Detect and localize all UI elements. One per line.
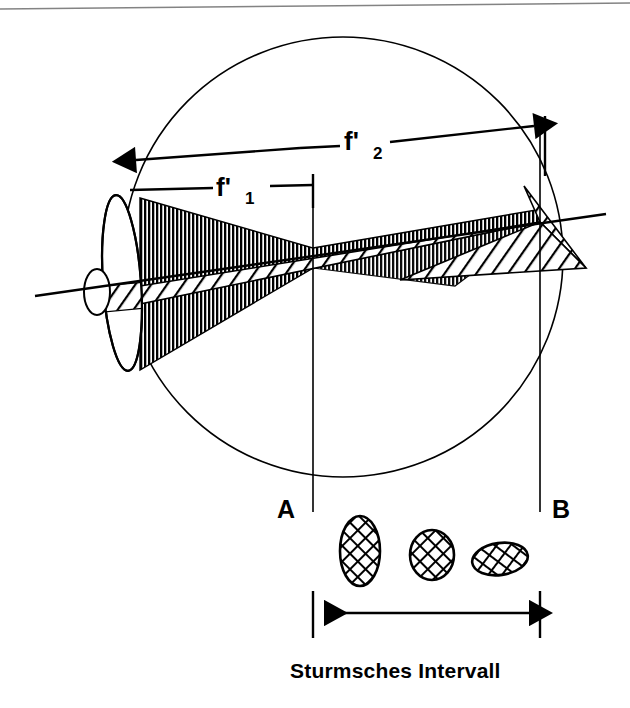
label-f-prime-2: f' 2: [344, 126, 382, 163]
blur-spot-horizontal-ellipse: [470, 539, 530, 578]
scan-page-edge: [0, 3, 630, 9]
dimension-f-prime-2: [136, 116, 545, 176]
caption-sturm-interval: Sturmsches Intervall: [290, 659, 501, 682]
label-point-a: A: [277, 495, 295, 523]
label-f-prime-1-text: f': [216, 172, 231, 202]
dimension-sturm-interval: [313, 591, 540, 638]
label-f-prime-2-text: f': [344, 126, 359, 156]
label-point-b: B: [552, 495, 570, 523]
blur-spot-circle: [410, 530, 454, 580]
blur-spot-vertical-ellipse: [340, 516, 380, 586]
sturm-interval-diagram: f' 1 f' 2 A B Sturmsches Intervall: [0, 0, 630, 708]
label-f-prime-1: f' 1: [216, 172, 254, 208]
figure-root: f' 1 f' 2 A B Sturmsches Intervall: [0, 0, 630, 708]
pupil-ellipse: [84, 269, 110, 315]
label-f-prime-2-subscript: 2: [373, 144, 382, 163]
label-f-prime-1-subscript: 1: [245, 189, 254, 208]
